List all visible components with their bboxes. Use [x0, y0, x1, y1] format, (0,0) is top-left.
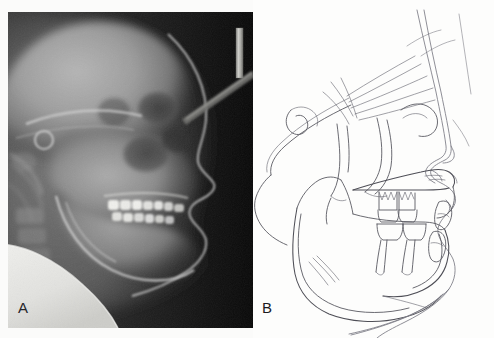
maxillary-second-molar [398, 192, 417, 222]
cranial-outline [255, 56, 435, 245]
panel-label-a: A [18, 300, 29, 315]
panel-a-radiograph [8, 12, 253, 328]
maxilla [353, 169, 457, 218]
maxillary-first-molar [378, 192, 399, 222]
mandibular-second-molar [402, 224, 426, 275]
cephalometric-tracing [253, 0, 494, 338]
radiograph-image [8, 12, 253, 328]
mandibular-incisor [429, 231, 446, 262]
film-grain [8, 12, 253, 328]
cephalometric-figure: A [0, 0, 494, 338]
panel-label-b: B [262, 300, 273, 315]
mandible-outline [293, 177, 449, 321]
panel-b-tracing [253, 0, 494, 338]
pterygomaxillary-fissure [331, 124, 349, 201]
sella-turcica [286, 107, 318, 135]
mandibular-first-molar [376, 224, 403, 275]
sketch-strokes [407, 14, 471, 146]
